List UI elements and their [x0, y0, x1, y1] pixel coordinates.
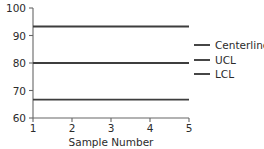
control-chart: 100 90 80 70 60 1 2 3 4 5 Sample Number — [0, 0, 264, 149]
chart-canvas: 100 90 80 70 60 1 2 3 4 5 Sample Number — [0, 0, 264, 149]
x-tick-label-1: 1 — [30, 122, 37, 134]
y-tick-label-60: 60 — [13, 112, 26, 124]
x-tick-label-5: 5 — [186, 122, 193, 134]
legend-item-ucl[interactable]: UCL — [194, 54, 236, 66]
y-tick-label-80: 80 — [13, 57, 26, 69]
legend-item-centerline[interactable]: Centerline — [194, 39, 264, 51]
legend-label-ucl: UCL — [215, 54, 236, 66]
x-tick-label-2: 2 — [69, 122, 76, 134]
y-tick-label-70: 70 — [13, 85, 26, 97]
y-tick-label-100: 100 — [6, 2, 26, 14]
legend-item-lcl[interactable]: LCL — [194, 68, 234, 80]
x-axis-title: Sample Number — [69, 136, 155, 148]
x-tick-label-3: 3 — [108, 122, 115, 134]
x-tick-label-4: 4 — [147, 122, 154, 134]
series-group — [33, 26, 189, 99]
legend-label-centerline: Centerline — [215, 39, 264, 51]
y-tick-label-90: 90 — [13, 30, 26, 42]
legend: Centerline UCL LCL — [194, 39, 264, 80]
legend-label-lcl: LCL — [215, 68, 234, 80]
